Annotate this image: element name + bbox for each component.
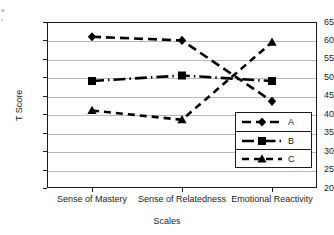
data-point-marker	[88, 32, 96, 41]
series-line	[92, 42, 272, 119]
y-axis-title: T Score	[14, 90, 24, 121]
series-B	[88, 71, 276, 85]
legend-swatch-triangle-icon	[240, 152, 284, 166]
data-point-marker	[178, 36, 186, 45]
legend-swatch-square-icon	[240, 134, 284, 148]
chart-figure: a r T Score 65605550454035302520 Sense o…	[0, 0, 334, 235]
legend-label: C	[284, 154, 295, 164]
legend-swatch-diamond-icon	[240, 115, 284, 129]
legend: ABC	[235, 112, 312, 168]
data-point-marker	[268, 97, 276, 106]
data-point-marker	[88, 77, 96, 85]
x-axis-tick-label: Emotional Reactivity	[227, 194, 317, 205]
cropped-edge-text-line-1: a	[1, 6, 5, 14]
x-axis-tick-mark	[182, 188, 183, 192]
x-axis-title: Scales	[0, 216, 334, 226]
x-axis-tick-mark	[92, 188, 93, 192]
data-point-marker	[178, 71, 186, 79]
y-axis-tick-mark	[43, 188, 47, 189]
data-point-marker	[267, 37, 276, 45]
legend-item-B[interactable]: B	[236, 131, 311, 149]
x-axis-tick-mark	[272, 188, 273, 192]
series-A	[88, 32, 276, 106]
series-line	[92, 37, 272, 102]
legend-item-C[interactable]: C	[236, 149, 311, 167]
x-axis-tick-label: Sense of Mastery	[47, 194, 137, 205]
x-axis-tick-label: Sense of Relatedness	[137, 194, 227, 205]
legend-label: B	[284, 136, 294, 146]
legend-item-A[interactable]: A	[236, 113, 311, 131]
data-point-marker	[268, 77, 276, 85]
legend-label: A	[284, 117, 294, 127]
cropped-edge-text-line-2: r	[1, 16, 4, 24]
